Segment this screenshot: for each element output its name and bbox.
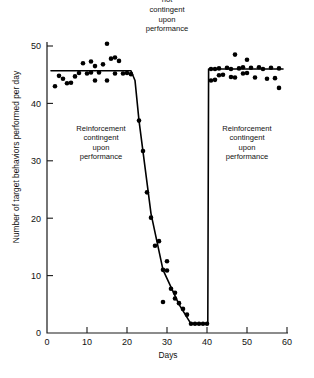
- data-point: [197, 322, 202, 327]
- data-point: [149, 215, 154, 220]
- data-point: [233, 52, 238, 57]
- trend-line: [51, 69, 283, 324]
- data-point: [153, 243, 158, 248]
- phase-label-reinforcement-not-contingent: Reinforcement not contingent upon perfor…: [127, 0, 207, 34]
- plot-axes: [47, 42, 288, 333]
- data-point: [169, 287, 174, 292]
- data-point: [205, 322, 210, 327]
- data-point: [217, 73, 222, 78]
- data-point: [141, 149, 146, 154]
- data-point: [245, 71, 250, 76]
- x-tick-label: 0: [44, 337, 49, 347]
- x-tick-label: 10: [82, 337, 92, 347]
- data-point: [145, 190, 150, 195]
- data-point: [73, 74, 78, 79]
- data-point: [245, 57, 250, 62]
- scatter-plot-canvas: 010203040506001020304050 Days: [0, 0, 314, 378]
- y-tick-label: 10: [31, 271, 41, 281]
- data-point: [241, 71, 246, 76]
- y-tick-label: 50: [31, 41, 41, 51]
- data-point: [229, 67, 234, 72]
- x-tick-label: 60: [282, 337, 292, 347]
- data-point: [113, 55, 118, 60]
- data-point: [185, 312, 190, 317]
- data-point: [85, 71, 90, 76]
- data-points: [53, 41, 282, 326]
- data-point: [121, 71, 126, 76]
- data-point: [257, 65, 262, 70]
- x-tick-label: 30: [162, 337, 172, 347]
- y-axis-title: Number of target behaviors performed per…: [11, 57, 21, 257]
- data-point: [109, 56, 114, 61]
- chart-figure: 010203040506001020304050 Days Number of …: [0, 0, 314, 378]
- y-tick-label: 40: [31, 99, 41, 109]
- data-point: [57, 74, 62, 79]
- data-point: [213, 78, 218, 83]
- data-point: [193, 322, 198, 327]
- data-point: [213, 67, 218, 72]
- data-point: [229, 75, 234, 80]
- data-point: [277, 66, 282, 71]
- data-point: [225, 66, 230, 71]
- data-point: [101, 62, 106, 67]
- data-point: [177, 301, 182, 306]
- data-point: [237, 66, 242, 71]
- axis-ticks: [47, 46, 287, 333]
- data-point: [221, 72, 226, 77]
- phase-label-reinforcement-contingent-left: Reinforcement contingent upon performanc…: [68, 124, 134, 162]
- data-point: [157, 239, 162, 244]
- data-point: [165, 268, 170, 273]
- data-point: [173, 291, 178, 296]
- data-point: [189, 322, 194, 327]
- data-point: [181, 307, 186, 312]
- data-point: [201, 322, 206, 327]
- x-axis-title: Days: [158, 350, 177, 360]
- data-point: [97, 70, 102, 75]
- data-point: [217, 66, 222, 71]
- phase-label-reinforcement-contingent-right: Reinforcement contingent upon performanc…: [214, 124, 280, 162]
- data-point: [81, 61, 86, 66]
- data-point: [273, 76, 278, 81]
- data-point: [277, 86, 282, 91]
- data-point: [233, 75, 238, 80]
- x-tick-label: 50: [242, 337, 252, 347]
- x-tick-label: 40: [202, 337, 212, 347]
- data-point: [161, 300, 166, 305]
- data-point: [61, 76, 66, 81]
- data-point: [53, 84, 58, 89]
- x-tick-label: 20: [122, 337, 132, 347]
- data-point: [241, 65, 246, 70]
- data-point: [117, 59, 122, 64]
- y-tick-label: 30: [31, 156, 41, 166]
- data-point: [89, 70, 94, 75]
- data-point: [105, 78, 110, 83]
- y-tick-label: 0: [36, 328, 41, 338]
- data-point: [77, 71, 82, 76]
- data-point: [165, 259, 170, 264]
- data-point: [173, 296, 178, 301]
- data-point: [269, 66, 274, 71]
- data-point: [129, 72, 134, 77]
- data-point: [93, 64, 98, 69]
- y-tick-label: 20: [31, 214, 41, 224]
- data-point: [89, 59, 94, 64]
- data-point: [105, 41, 110, 46]
- data-point: [69, 80, 74, 85]
- data-point: [249, 66, 254, 71]
- data-point: [65, 81, 70, 86]
- data-point: [137, 118, 142, 123]
- data-point: [209, 67, 214, 72]
- data-point: [253, 75, 258, 80]
- data-point: [161, 268, 166, 273]
- data-point: [113, 71, 118, 76]
- data-point: [125, 71, 130, 76]
- data-point: [265, 76, 270, 81]
- data-point: [209, 78, 214, 83]
- data-point: [93, 78, 98, 83]
- data-point: [261, 67, 266, 72]
